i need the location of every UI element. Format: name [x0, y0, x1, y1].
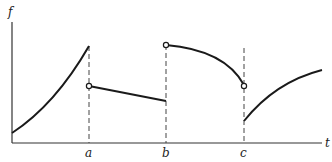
piece-1-curve [12, 46, 89, 133]
x-mark-b: b [162, 146, 170, 160]
open-endpoint-a [86, 83, 91, 88]
x-mark-c: c [240, 146, 247, 160]
piece-2-line [89, 86, 166, 101]
piecewise-function-diagram: f t a b c [0, 0, 332, 162]
y-axis-label: f [7, 5, 15, 19]
x-axis-label: t [325, 136, 330, 150]
open-endpoint-b [163, 42, 168, 47]
open-endpoint-c [241, 83, 246, 88]
piece-3-curve [166, 45, 244, 85]
x-mark-a: a [85, 146, 92, 160]
piece-4-curve [244, 70, 322, 121]
